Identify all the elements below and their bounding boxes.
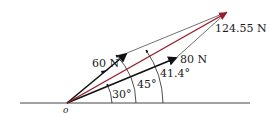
vector-80n-label: 80 N — [180, 53, 207, 66]
vector-60n-label: 60 N — [92, 57, 119, 70]
angle-label-41: 41.4° — [160, 67, 190, 80]
vector-diagram: 60 N 80 N 124.55 N 30° 45° 41.4° o — [0, 0, 270, 117]
resultant-label: 124.55 N — [215, 22, 267, 35]
angle-label-45: 45° — [137, 78, 157, 91]
vector-60n-mid-arrowhead — [101, 70, 108, 74]
construction-line-top — [127, 12, 227, 53]
angle-label-30: 30° — [112, 88, 132, 101]
origin-label: o — [63, 105, 69, 115]
